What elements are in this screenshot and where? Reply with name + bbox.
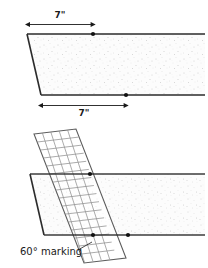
bottom-edge-point	[124, 93, 128, 97]
ruler-bottom-edge-left-point	[91, 233, 95, 237]
ruler-top-edge-point	[88, 172, 92, 176]
dimension-bottom: 7"	[43, 106, 124, 119]
dimension-bottom-label: 7"	[79, 108, 90, 118]
top-edge-point	[91, 32, 95, 36]
board-angle-diagram: 7" 7"	[0, 0, 208, 268]
top-board-view: 7" 7"	[27, 10, 205, 118]
ruler-bottom-edge-right-point	[126, 233, 130, 237]
dimension-top: 7"	[30, 10, 91, 25]
angle-marking-caption: 60° marking	[20, 246, 82, 257]
dimension-top-label: 7"	[55, 10, 66, 20]
bottom-board-view: 60° marking	[20, 129, 205, 263]
top-board-fill	[27, 34, 205, 95]
